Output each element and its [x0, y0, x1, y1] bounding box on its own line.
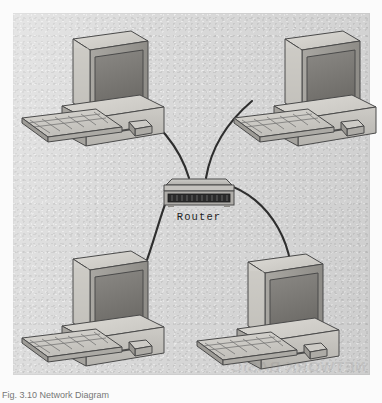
figure-caption: Fig. 3.10 Network Diagram [2, 389, 232, 403]
mouse [304, 343, 327, 359]
router-label: Router [177, 211, 221, 223]
pc-bottom-right[interactable] [197, 254, 339, 369]
pc-bottom-left[interactable] [22, 251, 164, 366]
pc-top-right[interactable] [234, 31, 376, 146]
figure-container: Router NETWORK BASIC Fig. 3.10 Network D… [0, 0, 382, 403]
pc-top-left[interactable] [22, 31, 164, 146]
cable-pc-top-right-to-router [206, 101, 252, 178]
router-device[interactable] [164, 179, 234, 207]
mouse [129, 120, 152, 136]
mouse [129, 340, 152, 356]
mouse [341, 120, 364, 136]
network-diagram-scene: Router [0, 0, 382, 403]
